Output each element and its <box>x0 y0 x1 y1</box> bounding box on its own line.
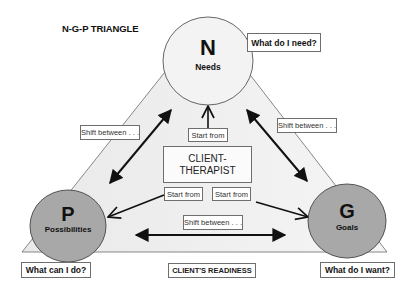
possibilities-label: Possibilities <box>30 225 106 234</box>
shift-between-bottom-label: Shift between . . . <box>183 215 243 230</box>
goals-letter: G <box>329 200 365 222</box>
client-therapist-line2: THERAPIST <box>179 165 235 177</box>
diagram-title: N-G-P TRIANGLE <box>62 23 139 34</box>
start-from-right-label: Start from <box>212 187 251 201</box>
start-from-left-label: Start from <box>164 187 203 201</box>
start-from-top-label: Start from <box>188 128 228 142</box>
needs-circle <box>163 17 253 105</box>
goals-label: Goals <box>322 223 372 232</box>
client-therapist-box: CLIENT- THERAPIST <box>163 146 252 183</box>
shift-between-left-label: Shift between . . . <box>80 125 140 140</box>
client-therapist-line1: CLIENT- <box>188 153 226 165</box>
shift-between-right-label: Shift between . . . <box>277 118 337 133</box>
needs-label: Needs <box>178 62 238 72</box>
needs-question-box: What do I need? <box>247 33 321 52</box>
possibilities-question-box: What can I do? <box>21 262 91 278</box>
possibilities-letter: P <box>50 203 86 225</box>
clients-readiness-label: CLIENT'S READINESS <box>168 263 256 278</box>
needs-letter: N <box>188 36 228 60</box>
goals-question-box: What do I want? <box>320 262 395 278</box>
